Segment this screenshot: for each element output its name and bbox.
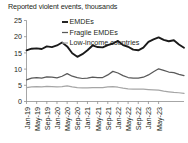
chart-container: Reported violent events, thousands 25201… <box>0 0 188 143</box>
y-axis-labels: 2520151050 <box>14 16 22 106</box>
x-axis-tick-label: Sep-19 <box>43 107 52 130</box>
x-axis-tick-label: Sep-20 <box>73 107 82 130</box>
y-axis-tick-label: 15 <box>14 49 22 58</box>
x-axis-tick-label: Jan-20 <box>53 107 62 129</box>
x-axis-tick-label: Jan-19 <box>23 107 32 129</box>
y-axis-tick-label: 25 <box>14 16 22 25</box>
y-axis-tick-label: 5 <box>18 81 22 90</box>
x-axis-tick-label: Sep-22 <box>134 107 143 130</box>
legend-label-2: Low-income countries <box>70 38 140 47</box>
x-axis-tick-label: May-22 <box>124 107 133 131</box>
legend-label-1: Fragile EMDEs <box>70 28 119 37</box>
x-axis-tick-label: Jan-21 <box>83 107 92 129</box>
y-axis-tick-label: 20 <box>14 32 22 41</box>
x-axis-tick-label: May-20 <box>63 107 72 131</box>
legend-label-0: EMDEs <box>70 17 95 26</box>
chart-plot-area: 2520151050 Jan-19May-19Sep-19Jan-20May-2… <box>0 0 188 143</box>
y-axis-ticks <box>24 21 27 102</box>
x-axis-tick-label: Sep-21 <box>104 107 113 130</box>
x-axis-tick-label: Jan-23 <box>144 107 153 129</box>
x-axis-ticks <box>27 102 159 105</box>
series-line-fragile-emdes <box>27 69 185 80</box>
x-axis-tick-label: May-23 <box>155 107 164 131</box>
chart-legend: EMDEsFragile EMDEsLow-income countries <box>62 17 140 47</box>
y-axis-tick-label: 10 <box>14 65 22 74</box>
x-axis-tick-label: May-21 <box>94 107 103 131</box>
y-axis-tick-label: 0 <box>18 97 22 106</box>
x-axis-tick-label: Jan-22 <box>114 107 123 129</box>
x-axis-tick-label: May-19 <box>33 107 42 131</box>
x-axis-labels: Jan-19May-19Sep-19Jan-20May-20Sep-20Jan-… <box>23 107 164 131</box>
series-line-low-income-countries <box>27 86 185 93</box>
